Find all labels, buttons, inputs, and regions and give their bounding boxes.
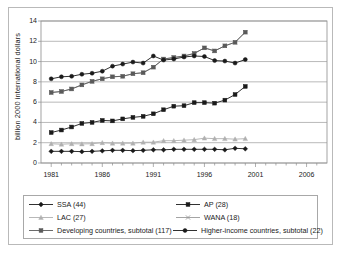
data-point-marker: [141, 71, 145, 75]
data-point-marker: [121, 62, 125, 66]
data-point-marker: [243, 30, 247, 34]
data-point-marker: [90, 121, 94, 125]
data-point-marker: [141, 114, 145, 118]
x-tick-label: 2006: [292, 171, 322, 178]
data-point-marker: [90, 79, 94, 83]
y-tick-label: 2: [19, 139, 37, 146]
data-point-marker: [111, 64, 115, 68]
data-point-marker: [151, 54, 155, 58]
data-point-marker: [213, 49, 217, 53]
data-point-marker: [223, 44, 227, 48]
data-point-marker: [131, 72, 135, 76]
x-tick-label: 1981: [36, 171, 66, 178]
data-point-marker: [79, 149, 84, 154]
legend-wana[interactable]: WANA (18): [175, 211, 317, 224]
legend-row: LAC (27)WANA (18): [24, 211, 317, 224]
data-point-marker: [90, 149, 95, 154]
data-point-marker: [161, 147, 166, 152]
data-point-marker: [182, 147, 187, 152]
data-point-marker: [39, 202, 44, 207]
data-point-marker: [100, 119, 104, 123]
data-point-marker: [203, 46, 207, 50]
data-point-marker: [60, 90, 64, 94]
x-tick-label: 1996: [189, 171, 219, 178]
data-point-marker: [110, 148, 115, 153]
legend-marker-icon: [175, 212, 201, 223]
series-ap-28: [49, 85, 247, 135]
data-point-marker: [202, 147, 207, 152]
data-point-marker: [60, 128, 64, 132]
data-point-marker: [70, 125, 74, 129]
x-tick-label: 1986: [87, 171, 117, 178]
data-point-marker: [59, 75, 63, 79]
legend-marker-icon: [172, 225, 198, 236]
data-point-marker: [233, 146, 238, 151]
legend-row: SSA (44)AP (28): [24, 198, 317, 211]
data-point-marker: [70, 87, 74, 91]
data-point-marker: [192, 147, 197, 152]
data-point-marker: [203, 101, 207, 105]
data-point-marker: [100, 77, 104, 81]
y-tick-label: 4: [19, 118, 37, 125]
figure-container: billion 2000 international dollars SSA (…: [0, 0, 342, 253]
y-tick-label: 12: [19, 37, 37, 44]
data-point-marker: [70, 74, 74, 78]
x-tick-label: 2001: [241, 171, 271, 178]
legend-label: LAC (27): [54, 213, 86, 222]
data-point-marker: [243, 58, 247, 62]
data-point-marker: [192, 54, 196, 58]
data-point-marker: [243, 146, 248, 151]
data-point-marker: [59, 149, 64, 154]
data-point-marker: [223, 59, 227, 63]
legend-label: WANA (18): [201, 213, 240, 222]
data-point-marker: [141, 61, 145, 65]
legend-ap[interactable]: AP (28): [175, 198, 317, 211]
legend-marker-icon: [28, 225, 54, 236]
series-line: [51, 86, 245, 132]
data-point-marker: [151, 65, 155, 69]
data-point-marker: [213, 101, 217, 105]
x-tick-label: 1991: [138, 171, 168, 178]
data-point-marker: [222, 147, 227, 152]
data-point-marker: [162, 108, 166, 112]
legend-marker-icon: [28, 212, 54, 223]
data-point-marker: [182, 104, 186, 108]
data-point-marker: [49, 91, 53, 95]
y-tick-label: 0: [19, 159, 37, 166]
legend-marker-icon: [175, 199, 201, 210]
legend-marker-icon: [28, 199, 54, 210]
data-point-marker: [49, 77, 53, 81]
data-point-marker: [100, 148, 105, 153]
data-point-marker: [80, 83, 84, 87]
y-tick-label: 8: [19, 78, 37, 85]
data-point-marker: [131, 60, 135, 64]
data-point-marker: [131, 115, 135, 119]
data-point-marker: [121, 74, 125, 78]
data-point-marker: [171, 147, 176, 152]
data-point-marker: [120, 148, 125, 153]
data-point-marker: [223, 98, 227, 102]
legend-higher-income[interactable]: Higher-income countries, subtotal (22): [172, 224, 317, 237]
legend-ssa[interactable]: SSA (44): [24, 198, 175, 211]
y-tick-label: 14: [19, 17, 37, 24]
data-point-marker: [202, 55, 206, 59]
legend-lac[interactable]: LAC (27): [24, 211, 175, 224]
data-point-marker: [121, 117, 125, 121]
y-tick-label: 6: [19, 98, 37, 105]
legend-row: Developing countries, subtotal (117)High…: [24, 224, 317, 237]
legend-label: Developing countries, subtotal (117): [54, 226, 172, 235]
data-point-marker: [233, 40, 237, 44]
data-point-marker: [172, 57, 176, 61]
data-point-marker: [182, 55, 186, 59]
legend-developing[interactable]: Developing countries, subtotal (117): [24, 224, 172, 237]
series-wana-18: [49, 30, 247, 95]
data-point-marker: [172, 104, 176, 108]
data-point-marker: [151, 147, 156, 152]
data-point-marker: [233, 93, 237, 97]
data-point-marker: [141, 148, 146, 153]
data-point-marker: [90, 71, 94, 75]
data-point-marker: [131, 148, 136, 153]
data-point-marker: [111, 119, 115, 123]
series-lac-27: [49, 136, 248, 146]
chart-legend: SSA (44)AP (28)LAC (27)WANA (18)Developi…: [23, 195, 318, 239]
